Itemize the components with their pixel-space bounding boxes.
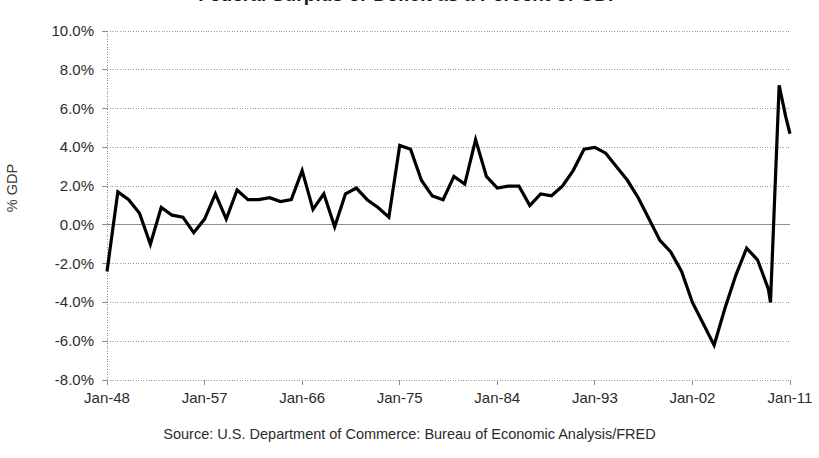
x-tick-label: Jan-93: [540, 390, 650, 405]
x-tick-label: Jan-02: [637, 390, 747, 405]
y-tick-label: 10.0%: [0, 23, 94, 38]
source-note: Source: U.S. Department of Commerce: Bur…: [0, 426, 819, 442]
x-tick-label: Jan-66: [247, 390, 357, 405]
y-tick-label: -4.0%: [0, 294, 94, 309]
plot-area: [107, 31, 790, 380]
y-tick-label: 4.0%: [0, 139, 94, 154]
y-tick-label: -6.0%: [0, 333, 94, 348]
data-series: [107, 85, 790, 345]
x-tick-label: Jan-11: [735, 390, 819, 405]
x-tick-label: Jan-75: [345, 390, 455, 405]
x-tick-label: Jan-84: [442, 390, 552, 405]
page-title: Federal Surplus or Deficit as a Percent …: [0, 0, 819, 6]
series-line: [107, 85, 790, 345]
y-tick-label: -2.0%: [0, 256, 94, 271]
y-tick-label: -8.0%: [0, 372, 94, 387]
y-tick-label: 8.0%: [0, 62, 94, 77]
tick-marks: [102, 31, 790, 385]
chart-figure: Federal Surplus or Deficit as a Percent …: [0, 0, 819, 458]
x-tick-label: Jan-48: [52, 390, 162, 405]
x-tick-label: Jan-57: [150, 390, 260, 405]
y-tick-label: 0.0%: [0, 217, 94, 232]
y-tick-label: 6.0%: [0, 101, 94, 116]
y-tick-label: 2.0%: [0, 178, 94, 193]
line-chart-svg: [107, 31, 790, 380]
